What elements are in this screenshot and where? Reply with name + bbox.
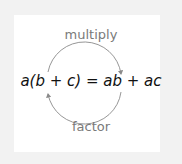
- distributive-equation: a(b + c) = ab + ac: [0, 72, 182, 90]
- factor-label: factor: [0, 119, 182, 134]
- multiply-label: multiply: [0, 27, 182, 42]
- multiply-arrow-icon: [48, 42, 121, 74]
